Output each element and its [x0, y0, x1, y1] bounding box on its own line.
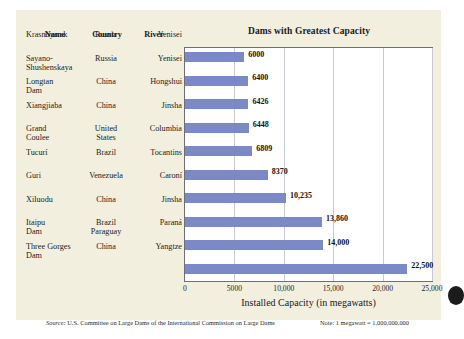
- bar-value-label: 8370: [272, 167, 288, 176]
- bar-value-label: 6809: [256, 144, 272, 153]
- bar: [185, 193, 286, 203]
- cell-country: Venezuela: [80, 171, 132, 180]
- table-row: Three GorgesDamChinaYangtze: [24, 242, 180, 266]
- cell-name: Xiangjiaba: [26, 101, 88, 110]
- scan-artifact: [448, 286, 464, 305]
- cell-country: China: [80, 242, 132, 251]
- bars-layer: 60006400642664486809837010,23513,86014,0…: [185, 48, 432, 281]
- bar-row: 6426: [185, 95, 432, 119]
- cell-country: BrazilParaguay: [80, 218, 132, 237]
- bar: [185, 123, 249, 133]
- cell-name: Tucurí: [26, 148, 88, 157]
- bar-value-label: 6448: [253, 120, 269, 129]
- cell-river: Paraná: [128, 218, 182, 227]
- table-row: Sayano-ShushenskayaRussiaYenisei: [24, 54, 180, 78]
- bar: [185, 264, 407, 274]
- bar: [185, 52, 244, 62]
- bar-row: 6809: [185, 142, 432, 166]
- figure-footer: Source: U.S. Committee on Large Dams of …: [24, 319, 434, 333]
- cell-name-line2: Dam: [26, 251, 88, 260]
- x-axis-title: Installed Capacity (in megawatts): [184, 297, 433, 308]
- bar-value-label: 6400: [252, 73, 268, 82]
- cell-river: Jinsha: [128, 195, 182, 204]
- chart-title: Dams with Greatest Capacity: [184, 26, 434, 36]
- bar-value-label: 14,000: [327, 238, 349, 247]
- bar-value-label: 13,860: [326, 214, 348, 223]
- x-tick-label: 10,000: [273, 284, 294, 293]
- cell-name: Krasnoyarsk: [26, 30, 88, 39]
- x-tick-label: 5000: [227, 284, 242, 293]
- x-tick-label: 0: [183, 284, 187, 293]
- bar-row: 14,000: [185, 236, 432, 260]
- cell-country: China: [80, 101, 132, 110]
- plot-area: 60006400642664486809837010,23513,86014,0…: [184, 47, 433, 282]
- cell-country-line2: States: [80, 133, 132, 142]
- table-row: GrandCouleeUnitedStatesColumbia: [24, 124, 180, 148]
- table-row: ItaipuDamBrazilParaguayParaná: [24, 218, 180, 242]
- bar-value-label: 10,235: [290, 191, 312, 200]
- bar-value-label: 6426: [252, 97, 268, 106]
- cell-name: Guri: [26, 171, 88, 180]
- bar-value-label: 6000: [248, 50, 264, 59]
- figure-panel: Dams with Greatest Capacity Name Country…: [16, 10, 441, 320]
- megawatt-note: Note: 1 megawatt = 1,000,000,000: [320, 319, 409, 326]
- cell-country: Russia: [80, 54, 132, 63]
- bar-row: 10,235: [185, 189, 432, 213]
- cell-river: Columbia: [128, 124, 182, 133]
- bar-row: 13,860: [185, 213, 432, 237]
- bar: [185, 76, 248, 86]
- cell-river: Yenisei: [128, 30, 182, 39]
- cell-river: Jinsha: [128, 101, 182, 110]
- table-row: LongtanDamChinaHongshui: [24, 77, 180, 101]
- bar: [185, 146, 252, 156]
- table-row: TucuríBrazilTocantins: [24, 148, 180, 172]
- cell-river: Hongshui: [128, 77, 182, 86]
- cell-name-line2: Shushenskaya: [26, 63, 88, 72]
- cell-country: UnitedStates: [80, 124, 132, 143]
- cell-name: Three GorgesDam: [26, 242, 88, 261]
- bar-row: 8370: [185, 166, 432, 190]
- bar: [185, 170, 268, 180]
- cell-name-line2: Dam: [26, 86, 88, 95]
- cell-country: Brazil: [80, 148, 132, 157]
- cell-river: Caroní: [128, 171, 182, 180]
- cell-name-line2: Coulee: [26, 133, 88, 142]
- source-note: Source: U.S. Committee on Large Dams of …: [46, 319, 275, 326]
- cell-country: China: [80, 195, 132, 204]
- cell-river: Yenisei: [128, 54, 182, 63]
- cell-country-line2: Paraguay: [80, 227, 132, 236]
- cell-name-line2: Dam: [26, 227, 88, 236]
- table-row: KrasnoyarskRussiaYenisei: [24, 30, 180, 54]
- cell-country: Russia: [80, 30, 132, 39]
- bar-row: 22,500: [185, 260, 432, 284]
- bar: [185, 240, 323, 250]
- x-tick-label: 25,000: [422, 284, 443, 293]
- gridline: [432, 48, 433, 281]
- cell-name: Sayano-Shushenskaya: [26, 54, 88, 73]
- table-row: GuriVenezuelaCaroní: [24, 171, 180, 195]
- table-row: XiangjiabaChinaJinsha: [24, 101, 180, 125]
- cell-river: Yangtze: [128, 242, 182, 251]
- table-row: XiluoduChinaJinsha: [24, 195, 180, 219]
- bar: [185, 217, 322, 227]
- cell-name: Xiluodu: [26, 195, 88, 204]
- bar-row: 6448: [185, 119, 432, 143]
- cell-name: ItaipuDam: [26, 218, 88, 237]
- bar-value-label: 22,500: [411, 261, 433, 270]
- x-tick-label: 15,000: [323, 284, 344, 293]
- x-tick-label: 20,000: [372, 284, 393, 293]
- x-axis-tick-labels: 0500010,00015,00020,00025,000: [184, 284, 433, 296]
- cell-name: GrandCoulee: [26, 124, 88, 143]
- cell-country: China: [80, 77, 132, 86]
- bar-row: 6000: [185, 48, 432, 72]
- bar: [185, 99, 248, 109]
- cell-river: Tocantins: [128, 148, 182, 157]
- cell-name: LongtanDam: [26, 77, 88, 96]
- source-text: U.S. Committee on Large Dams of the Inte…: [66, 319, 275, 326]
- dam-label-table: Name Country River KrasnoyarskRussiaYeni…: [24, 30, 180, 47]
- source-label: Source:: [46, 319, 66, 326]
- bar-row: 6400: [185, 72, 432, 96]
